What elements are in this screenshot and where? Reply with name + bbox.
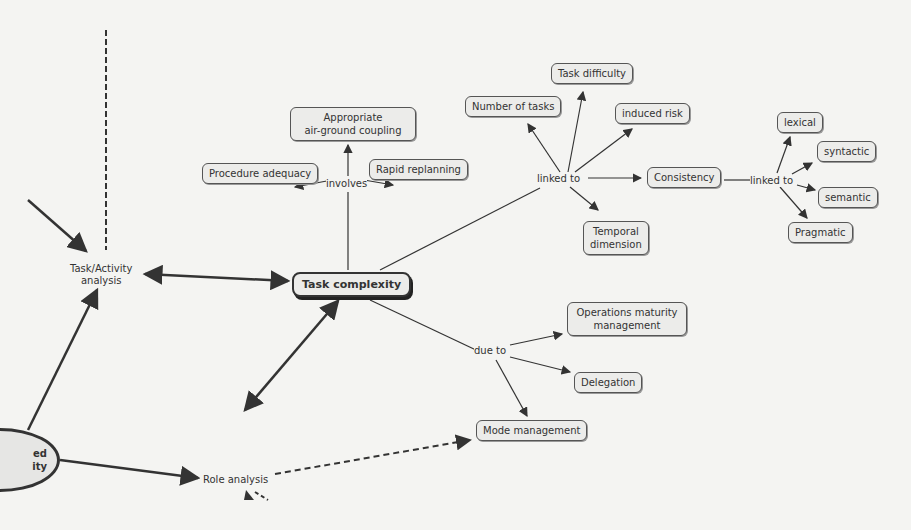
node-task-complexity[interactable]: Task complexity <box>292 272 411 297</box>
node-text: management <box>574 319 680 332</box>
node-consistency[interactable]: Consistency <box>647 167 721 188</box>
link-label-involves: involves <box>326 178 367 190</box>
node-pragmatic[interactable]: Pragmatic <box>788 222 853 243</box>
link-label-linked-to: linked to <box>537 173 580 185</box>
node-induced-risk[interactable]: induced risk <box>615 103 690 124</box>
node-role-analysis[interactable]: Role analysis <box>203 474 268 486</box>
node-syntactic[interactable]: syntactic <box>817 141 876 162</box>
link-label-due-to: due to <box>474 345 506 357</box>
node-delegation[interactable]: Delegation <box>574 372 642 393</box>
node-text: Operations maturity <box>574 306 680 319</box>
node-rapid-replanning[interactable]: Rapid replanning <box>369 159 468 180</box>
node-temporal-dimension[interactable]: Temporal dimension <box>583 221 649 255</box>
node-text: ity <box>32 460 47 473</box>
node-task-activity-analysis[interactable]: Task/Activity analysis <box>70 263 132 287</box>
node-text: dimension <box>590 238 642 251</box>
node-appropriate-air-ground-coupling[interactable]: Appropriate air-ground coupling <box>290 107 416 141</box>
node-mode-management[interactable]: Mode management <box>476 420 587 441</box>
node-procedure-adequacy[interactable]: Procedure adequacy <box>202 163 318 184</box>
node-number-of-tasks[interactable]: Number of tasks <box>465 96 561 117</box>
node-text: air-ground coupling <box>297 124 409 137</box>
node-text: Task/Activity <box>70 263 132 275</box>
node-task-difficulty[interactable]: Task difficulty <box>551 63 633 84</box>
connection-lines <box>0 0 911 530</box>
node-lexical[interactable]: lexical <box>777 112 823 133</box>
node-text: ed <box>32 447 47 460</box>
node-text: Temporal <box>590 225 642 238</box>
link-label-linked-to-2: linked to <box>750 175 793 187</box>
node-semantic[interactable]: semantic <box>818 187 878 208</box>
node-text: Appropriate <box>297 111 409 124</box>
node-text: analysis <box>70 275 132 287</box>
node-operations-maturity-management[interactable]: Operations maturity management <box>567 302 687 336</box>
